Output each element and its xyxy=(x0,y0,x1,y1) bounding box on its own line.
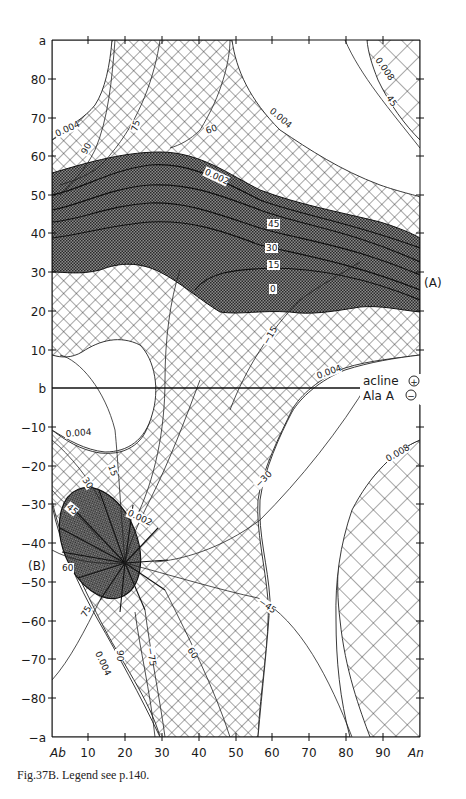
stereographic-diagram: a 80 70 60 50 40 30 20 10 b −10 −20 −30 … xyxy=(0,0,466,799)
contour-label: 0 xyxy=(270,284,276,294)
y-tick-label: −70 xyxy=(21,653,46,667)
x-tick-label: 40 xyxy=(191,746,206,760)
y-tick-label: −80 xyxy=(21,692,46,706)
x-tick-label: 50 xyxy=(228,746,243,760)
y-label-middle: b xyxy=(38,382,46,396)
y-tick-label: 30 xyxy=(31,266,46,280)
x-label-right: An xyxy=(407,746,424,760)
contour-label: 60 xyxy=(62,563,74,573)
x-label-left: Ab xyxy=(49,746,66,760)
y-tick-label: 70 xyxy=(31,112,46,126)
minus-sign: − xyxy=(407,391,415,401)
y-tick-label: 60 xyxy=(31,150,46,164)
x-tick-label: 60 xyxy=(264,746,279,760)
x-tick-label: 30 xyxy=(154,746,169,760)
y-tick-label: −30 xyxy=(21,498,46,512)
contour-label: 30 xyxy=(266,243,278,253)
region-label-B: (B) xyxy=(28,559,46,573)
contour-label: 90 xyxy=(115,650,125,662)
y-axis-labels: a 80 70 60 50 40 30 20 10 b −10 −20 −30 … xyxy=(21,34,46,745)
y-label-bottom: −a xyxy=(29,731,46,745)
region-label-A: (A) xyxy=(424,276,442,290)
figure-caption: Fig.37B. Legend see p.140. xyxy=(17,768,149,783)
y-tick-label: 20 xyxy=(31,305,46,319)
y-tick-label: 50 xyxy=(31,189,46,203)
legend: acline + Ala A − xyxy=(360,374,460,404)
x-tick-label: 80 xyxy=(338,746,353,760)
y-tick-label: 10 xyxy=(31,344,46,358)
plus-sign: + xyxy=(410,377,418,387)
x-axis-labels: Ab 10 20 30 40 50 60 70 80 90 An xyxy=(49,746,424,760)
legend-acline: acline xyxy=(363,374,399,388)
contour-label: 45 xyxy=(268,219,279,229)
x-tick-label: 10 xyxy=(80,746,95,760)
y-tick-label: 80 xyxy=(31,73,46,87)
y-tick-label: −40 xyxy=(21,537,46,551)
contour-label: 15 xyxy=(268,260,279,270)
y-tick-label: −60 xyxy=(21,615,46,629)
y-tick-label: 40 xyxy=(31,227,46,241)
x-tick-label: 70 xyxy=(301,746,316,760)
legend-ala-a: Ala A xyxy=(363,389,395,403)
x-tick-label: 90 xyxy=(375,746,390,760)
y-tick-label: −50 xyxy=(21,576,46,590)
y-tick-label: −10 xyxy=(21,421,46,435)
x-tick-label: 20 xyxy=(117,746,132,760)
y-tick-label: −20 xyxy=(21,460,46,474)
y-label-top: a xyxy=(39,34,46,48)
